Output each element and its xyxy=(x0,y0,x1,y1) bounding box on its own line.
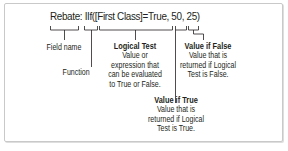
logical-test-label: Logical Test Value or expression that ca… xyxy=(101,42,170,89)
value-if-true-label: Value if True Value that is returned if … xyxy=(142,96,211,134)
field-name-bracket xyxy=(51,26,79,30)
value-if-false-label: Value if False Value that is returned if… xyxy=(174,42,243,80)
logical-test-bracket xyxy=(100,26,173,30)
value-if-false-bracket xyxy=(189,26,199,30)
value-if-true-bracket xyxy=(176,26,187,30)
field-name-label: Field name xyxy=(40,43,88,52)
function-label: Function xyxy=(60,68,89,77)
function-bracket xyxy=(85,26,98,30)
